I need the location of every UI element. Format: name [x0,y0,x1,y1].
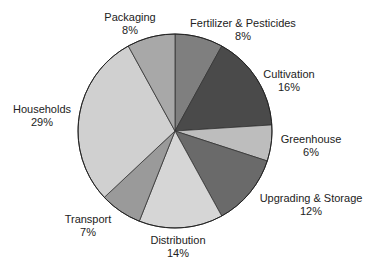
label-percent: 8% [190,30,296,43]
label-name: Fertilizer & Pesticides [190,17,296,30]
label-distribution: Distribution14% [150,234,205,260]
label-percent: 14% [150,247,205,260]
label-percent: 12% [260,205,363,218]
label-packaging: Packaging8% [104,11,155,37]
label-greenhouse: Greenhouse6% [281,133,342,159]
label-households: Households29% [13,103,71,129]
label-percent: 16% [263,81,314,94]
label-name: Packaging [104,11,155,24]
label-fertilizer-pesticides: Fertilizer & Pesticides8% [190,17,296,43]
label-cultivation: Cultivation16% [263,68,314,94]
label-name: Upgrading & Storage [260,192,363,205]
label-name: Cultivation [263,68,314,81]
label-percent: 6% [281,146,342,159]
label-name: Households [13,103,71,116]
label-transport: Transport7% [65,213,112,239]
label-name: Distribution [150,234,205,247]
label-name: Transport [65,213,112,226]
label-percent: 29% [13,116,71,129]
label-percent: 8% [104,24,155,37]
label-name: Greenhouse [281,133,342,146]
label-percent: 7% [65,226,112,239]
label-upgrading-storage: Upgrading & Storage12% [260,192,363,218]
